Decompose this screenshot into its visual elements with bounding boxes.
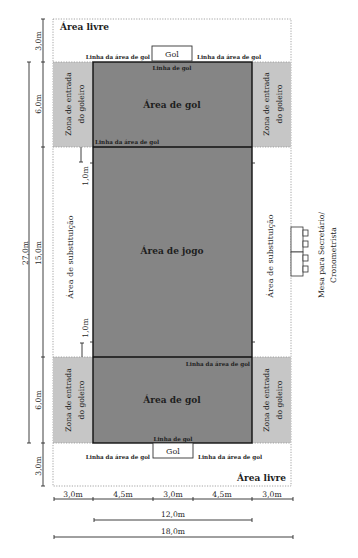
goalkeeper-zone-label: Zona de entrada [262,368,271,432]
goal-line-bottom-label: Linha de gol [154,436,193,443]
goal-area-bottom-label: Área de gol [142,394,201,405]
goalkeeper-zone-label: Zona de entrada [262,72,271,136]
dim-segment-label: 4,5m [113,490,132,499]
goal-top-label: Gol [165,50,179,59]
goalkeeper-zone-label: do goleiro [77,380,86,419]
goal-area-line-label: Linha da área de gol [186,361,250,368]
dim-court-width-label: 12,0m [161,510,185,519]
dim-goal-area-bottom-label: 6,0m [34,390,43,409]
goalkeeper-zone-top-left [53,62,93,147]
dim-total-width-label: 18,0m [161,527,185,536]
free-area-bottom-label: Área livre [236,472,286,483]
goal-area-line-label: Linha da área de gol [197,54,261,61]
goal-area-line-label: Linha da área de gol [86,54,150,61]
dim-segment-label: 4,5m [212,490,231,499]
dim-free-top-label: 3,0m [34,31,43,50]
goalkeeper-zone-bottom-left [53,357,93,443]
substitution-area-left-label: Área de substituição [66,215,75,299]
goal-line-top-label: Linha de gol [153,65,192,72]
dim-middle-label: 15,0m [34,241,43,265]
handball-court-diagram: Gol Gol Área livre Área livre Linha da á… [0,0,358,558]
dim-free-bottom-label: 3,0m [34,456,43,475]
free-area-top-label: Área livre [59,21,109,32]
goalkeeper-zone-label: do goleiro [275,380,284,419]
offset-dim-label: 1,0m [81,318,90,337]
goalkeeper-zone-top-right [252,62,291,147]
goal-area-top-label: Área de gol [142,99,201,110]
substitution-area-right-label: Área de substituição [266,214,275,298]
dim-court-length-label: 27,0m [21,241,30,265]
offset-dim-label: 1,0m [81,166,90,185]
goal-area-line-label: Linha da área de gol [198,454,262,461]
dim-segment-label: 3,0m [163,490,182,499]
goalkeeper-zone-bottom-right [252,357,291,443]
scorer-table-label: Cronometrista [329,227,338,283]
goalkeeper-zone-label: do goleiro [77,84,86,123]
scorer-table-icon [291,227,308,276]
goal-area-line-label: Linha da área de gol [95,139,159,146]
goal-area-line-label: Linha da área de gol [86,454,150,461]
goal-bottom-label: Gol [166,447,180,456]
scorer-table-label: Mesa para Secretário/ [317,212,326,298]
goalkeeper-zone-label: Zona de entrada [64,368,73,432]
dim-segment-label: 3,0m [63,490,82,499]
play-area-label: Área de jogo [139,245,203,256]
dim-goal-area-top-label: 6,0m [34,94,43,113]
goalkeeper-zone-label: do goleiro [275,84,284,123]
goalkeeper-zone-label: Zona de entrada [64,72,73,136]
dim-segment-label: 3,0m [262,490,281,499]
